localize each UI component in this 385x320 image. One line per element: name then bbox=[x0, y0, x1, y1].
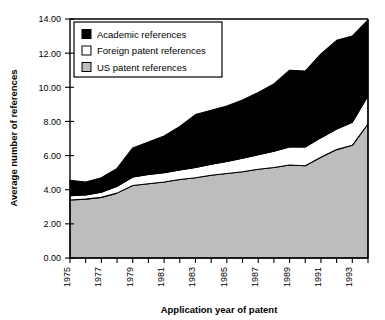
x-tick-label: 1977 bbox=[93, 267, 103, 287]
x-tick-label: 1985 bbox=[219, 267, 229, 287]
y-tick-label: 8.00 bbox=[43, 117, 61, 127]
x-tick-label: 1987 bbox=[250, 267, 260, 287]
legend-swatch-foreign-patent-icon bbox=[82, 46, 91, 55]
x-tick-label: 1981 bbox=[156, 267, 166, 287]
legend-item-academic: Academic references bbox=[82, 29, 186, 40]
legend-item-foreign-patent: Foreign patent references bbox=[82, 45, 206, 56]
x-axis-title: Application year of patent bbox=[161, 304, 278, 315]
y-axis-title: Average number of references bbox=[8, 70, 19, 207]
y-tick-label: 2.00 bbox=[43, 219, 61, 229]
x-tick-label: 1975 bbox=[62, 267, 72, 287]
x-tick-label: 1993 bbox=[344, 267, 354, 287]
y-tick-label: 4.00 bbox=[43, 185, 61, 195]
y-tick-label: 0.00 bbox=[43, 253, 61, 263]
legend-swatch-academic-icon bbox=[82, 30, 91, 39]
x-tick-label: 1989 bbox=[282, 267, 292, 287]
x-tick-label: 1979 bbox=[125, 267, 135, 287]
chart-canvas: 0.002.004.006.008.0010.0012.0014.00 1975… bbox=[0, 0, 385, 320]
legend-item-us-patent: US patent references bbox=[82, 62, 187, 73]
legend-label-foreign-patent: Foreign patent references bbox=[97, 45, 206, 56]
legend-label-academic: Academic references bbox=[97, 29, 186, 40]
y-tick-label: 12.00 bbox=[38, 49, 61, 59]
y-tick-label: 6.00 bbox=[43, 151, 61, 161]
legend-swatch-us-patent-icon bbox=[82, 63, 91, 72]
stacked-area-chart: 0.002.004.006.008.0010.0012.0014.00 1975… bbox=[0, 0, 385, 320]
x-tick-label: 1991 bbox=[313, 267, 323, 287]
legend: Academic references Foreign patent refer… bbox=[74, 22, 222, 77]
x-tick-label: 1983 bbox=[187, 267, 197, 287]
y-tick-label: 14.00 bbox=[38, 14, 61, 24]
legend-label-us-patent: US patent references bbox=[97, 62, 187, 73]
y-tick-label: 10.00 bbox=[38, 83, 61, 93]
